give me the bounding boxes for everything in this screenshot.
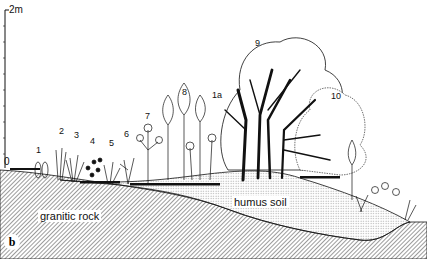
scale-zero-label: 0 [4, 156, 10, 167]
species-label-3: 3 [74, 131, 79, 140]
height-scale-axis [3, 10, 9, 168]
granitic-rock-label: granitic rock [38, 210, 101, 222]
species-label-9: 9 [255, 39, 260, 48]
vegetation-profile-diagram: 2m 0 1 2 3 4 5 6 7 8 1a 9 10 granitic ro… [0, 0, 427, 259]
species-label-8: 8 [182, 88, 187, 97]
species-label-6: 6 [124, 130, 129, 139]
tree-canopy [221, 38, 366, 180]
species-label-1: 1 [36, 146, 41, 155]
species-label-7: 7 [145, 112, 150, 121]
species-label-5: 5 [109, 139, 114, 148]
species-label-2: 2 [59, 127, 64, 136]
humus-soil-label: humus soil [232, 196, 289, 208]
panel-label: b [4, 234, 20, 250]
scale-top-label: 2m [9, 4, 23, 15]
species-label-1a: 1a [212, 91, 222, 100]
species-label-4: 4 [90, 137, 95, 146]
species-label-10: 10 [331, 92, 341, 101]
